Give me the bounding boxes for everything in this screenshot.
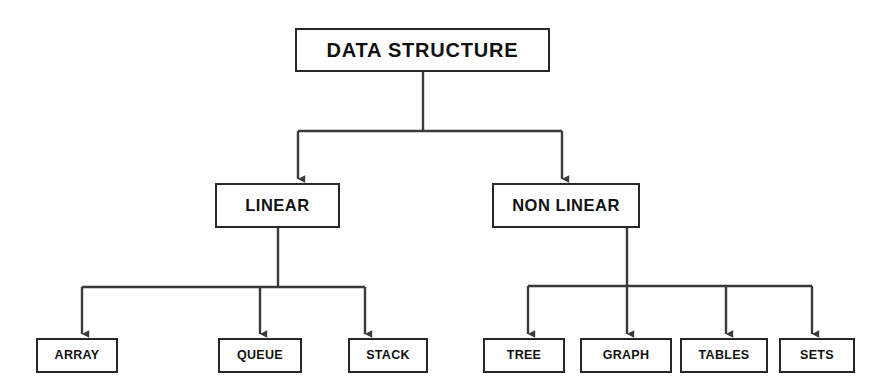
node-data-structure-label: DATA STRUCTURE [327,40,519,60]
node-linear-label: LINEAR [245,197,309,214]
node-sets: SETS [779,338,855,373]
node-stack: STACK [348,338,428,373]
node-non-linear-label: NON LINEAR [512,197,620,214]
node-array: ARRAY [36,338,118,373]
node-sets-label: SETS [800,349,834,362]
node-stack-label: STACK [366,349,410,362]
node-tree: TREE [483,338,565,373]
node-array-label: ARRAY [55,349,100,362]
node-tree-label: TREE [507,349,542,362]
node-non-linear: NON LINEAR [492,183,640,228]
node-graph: GRAPH [580,338,672,373]
node-queue: QUEUE [218,338,302,373]
data-structure-diagram: DATA STRUCTURE LINEAR NON LINEAR ARRAY Q… [0,0,891,392]
node-tables: TABLES [680,338,768,373]
node-graph-label: GRAPH [603,349,650,362]
node-linear: LINEAR [215,183,340,228]
node-tables-label: TABLES [699,349,750,362]
node-data-structure: DATA STRUCTURE [295,28,550,72]
node-queue-label: QUEUE [237,349,283,362]
